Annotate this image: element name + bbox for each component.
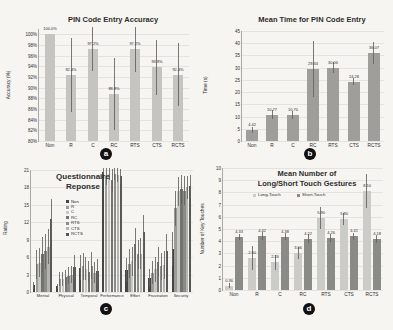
- error-bar: [353, 233, 354, 240]
- error-bar: [313, 41, 314, 97]
- y-tick-label: 40: [235, 41, 240, 46]
- bar-RCTS-Short-Touch: [373, 239, 381, 290]
- y-tick-label: 10: [235, 114, 240, 119]
- y-tick-label: 84%: [28, 117, 37, 122]
- legend-marker: [66, 222, 69, 225]
- y-tick-label: 0: [237, 139, 240, 144]
- y-tick-label: 10: [216, 166, 221, 171]
- value-label: 88.8%: [108, 87, 119, 91]
- x-tick-label: RTS: [321, 292, 331, 297]
- error-bar: [92, 27, 93, 71]
- error-bar: [172, 232, 173, 267]
- subfigure-badge-a: a: [100, 148, 112, 160]
- value-label: 24.28: [349, 75, 359, 79]
- error-bar: [178, 43, 179, 106]
- value-label: 4.38: [281, 230, 289, 234]
- legend-marker: [66, 211, 69, 214]
- error-bar: [88, 261, 89, 282]
- error-bar: [138, 240, 139, 269]
- y-tick-label: 35: [235, 53, 240, 58]
- bar-RCTS: [368, 53, 380, 141]
- error-bar: [252, 127, 253, 133]
- error-bar: [184, 176, 185, 205]
- y-tick-label: 92%: [28, 75, 37, 80]
- y-tick-label: 98%: [28, 43, 37, 48]
- error-bar: [156, 40, 157, 95]
- error-bar: [285, 233, 286, 240]
- legend-label: R: [71, 205, 74, 209]
- error-bar: [51, 199, 52, 240]
- value-label: 5.80: [340, 212, 348, 216]
- plot-area: 0510152025303540454.4210.7710.7029.3430.…: [241, 31, 384, 142]
- y-tick-label: 90%: [28, 85, 37, 90]
- y-tick-label: 9: [26, 237, 29, 242]
- legend-label: Short-Touch: [302, 193, 325, 197]
- x-tick-label: Frustration: [149, 294, 169, 298]
- x-tick-label: RC: [111, 143, 118, 148]
- subfigure-badge-d: d: [303, 303, 315, 315]
- legend-label: Long-Touch: [258, 193, 281, 197]
- error-bar: [48, 229, 49, 264]
- error-bar: [190, 175, 191, 198]
- error-bar: [71, 266, 72, 283]
- error-bar: [57, 284, 58, 289]
- error-bar: [74, 255, 75, 278]
- value-label: 92.4%: [173, 68, 184, 72]
- bar-Non: [45, 34, 55, 141]
- panel-questionnaire: Questionnaire Reponse Rating 03691215182…: [0, 163, 196, 330]
- x-tick-label: Non: [248, 143, 257, 148]
- x-tick-label: R: [271, 143, 274, 148]
- legend-label: C: [71, 210, 74, 214]
- figure-page: PIN Code Entry Accuracy Accuracy (%) 80%…: [0, 0, 393, 330]
- value-label: 4.18: [373, 232, 381, 236]
- value-label: 4.42: [248, 123, 256, 127]
- chart-title: Mean Number of Long/Short Touch Gestures: [237, 169, 377, 189]
- gridline: [242, 141, 384, 142]
- gridline: [223, 217, 383, 218]
- x-tick-label: RCTS: [367, 143, 380, 148]
- y-tick-label: 100%: [25, 32, 37, 37]
- x-tick-label: Mental: [36, 294, 48, 298]
- error-bar: [135, 27, 136, 72]
- value-label: 2.60: [248, 251, 256, 255]
- y-tick-label: 25: [235, 78, 240, 83]
- x-tick-label: C: [291, 143, 294, 148]
- x-tick-label: Non: [230, 292, 239, 297]
- legend: Long-TouchShort-Touch: [253, 192, 335, 198]
- value-label: 3.06: [294, 246, 302, 250]
- error-bar: [129, 249, 130, 278]
- error-bar: [83, 253, 84, 280]
- error-bar: [132, 247, 133, 276]
- bar-CTS: [348, 82, 360, 141]
- value-label: 5.90: [317, 211, 325, 215]
- x-tick-label: RTS: [329, 143, 339, 148]
- bar-C-Short-Touch: [281, 237, 289, 290]
- plot-area: 80%82%84%86%88%90%92%94%96%98%100%100.0%…: [38, 29, 189, 142]
- x-tick-label: Performance: [100, 294, 123, 298]
- error-bar: [45, 234, 46, 269]
- legend-marker: [66, 200, 69, 203]
- gridline: [39, 34, 189, 35]
- legend-label: Non: [71, 200, 79, 204]
- error-bar: [292, 111, 293, 119]
- error-bar: [164, 251, 165, 279]
- error-bar: [36, 250, 37, 279]
- error-bar: [85, 257, 86, 280]
- y-tick-label: 45: [235, 29, 240, 34]
- value-label: 4.22: [304, 232, 312, 236]
- y-tick-label: 30: [235, 65, 240, 70]
- legend-marker: [66, 233, 69, 236]
- value-label: 97.2%: [87, 42, 98, 46]
- error-bar: [181, 175, 182, 204]
- y-axis-label: Rating: [3, 221, 8, 235]
- legend-item: Short-Touch: [297, 192, 334, 198]
- error-bar: [126, 258, 127, 281]
- gridline: [223, 205, 383, 206]
- value-label: 36.07: [369, 46, 379, 50]
- gridline: [39, 56, 189, 57]
- y-tick-label: 3: [26, 272, 29, 277]
- x-tick-label: Physical: [58, 294, 73, 298]
- gridline: [31, 292, 193, 293]
- chart-title: PIN Code Entry Accuracy: [38, 15, 188, 24]
- y-tick-label: 96%: [28, 53, 37, 58]
